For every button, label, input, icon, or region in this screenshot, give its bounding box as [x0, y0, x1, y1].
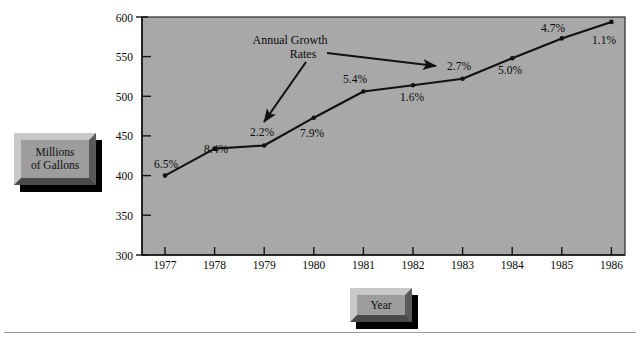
x-tick-1978: 1978 [203, 259, 226, 271]
x-axis-tick-labels: 1977 1978 1979 1980 1981 1982 1983 1984 … [154, 259, 624, 271]
y-tick-500: 500 [116, 91, 134, 103]
pct-label-1986: 1.1% [592, 34, 616, 46]
pct-label-1979: 2.2% [250, 126, 274, 138]
x-tick-1980: 1980 [302, 259, 325, 271]
data-point [163, 173, 168, 178]
y-tick-300: 300 [116, 250, 134, 262]
pct-label-1982: 1.6% [400, 91, 424, 103]
pct-label-1980: 7.9% [300, 127, 324, 139]
pct-label-1984: 5.0% [498, 64, 522, 76]
chart-screenshot: 600 550 500 450 400 350 300 1977 1978 19… [0, 0, 640, 344]
pct-label-1985: 4.7% [541, 22, 565, 34]
pct-label-1977: 6.5% [154, 158, 178, 170]
x-tick-1979: 1979 [253, 259, 276, 271]
y-axis-title-face: Millions of Gallons [14, 133, 96, 185]
y-axis-title-plate: Millions of Gallons [14, 133, 96, 185]
x-tick-1984: 1984 [501, 259, 524, 271]
data-point [411, 83, 416, 88]
pct-label-1981: 5.4% [343, 73, 367, 85]
annotation-line-1: Annual Growth [253, 33, 328, 47]
pct-label-1983: 2.7% [447, 60, 471, 72]
x-tick-1981: 1981 [352, 259, 375, 271]
x-tick-1983: 1983 [451, 259, 474, 271]
data-point [560, 36, 565, 41]
x-tick-1977: 1977 [154, 259, 177, 271]
plot-area-background [142, 17, 625, 255]
x-tick-1985: 1985 [550, 259, 573, 271]
bottom-divider [4, 332, 636, 333]
data-point [510, 56, 515, 61]
y-tick-550: 550 [116, 51, 134, 63]
y-tick-400: 400 [116, 170, 134, 182]
y-tick-600: 600 [116, 12, 134, 24]
data-point [361, 89, 366, 94]
annotation-line-2: Rates [290, 47, 317, 61]
x-tick-1982: 1982 [402, 259, 425, 271]
y-tick-450: 450 [116, 130, 134, 142]
x-axis-title-face: Year [350, 288, 412, 322]
y-tick-350: 350 [116, 210, 134, 222]
x-axis-title-label: Year [370, 299, 391, 312]
x-axis-title-plate: Year [350, 288, 412, 322]
data-point [609, 20, 614, 25]
data-point [262, 143, 267, 148]
y-axis-title-label: Millions of Gallons [31, 146, 79, 172]
data-point [460, 77, 465, 82]
x-tick-1986: 1986 [600, 259, 623, 271]
pct-label-1978: 8.4% [204, 143, 228, 155]
y-axis-tick-labels: 600 550 500 450 400 350 300 [116, 12, 134, 262]
data-point [312, 115, 317, 120]
